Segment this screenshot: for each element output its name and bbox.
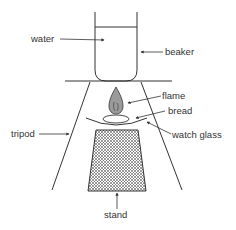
label-water: water [30,33,54,44]
stand [88,130,146,191]
bread-pointer [136,111,165,118]
label-watch-glass: watch glass [171,129,222,140]
flame-pointer [128,96,161,103]
experiment-diagram: water beaker flame bread watch glass tri… [0,0,236,230]
label-bread: bread [168,105,192,116]
water-pointer [60,39,104,40]
bread [103,115,129,123]
watch-glass-pointer [147,122,171,134]
label-stand: stand [104,209,127,220]
label-flame: flame [162,90,185,101]
label-tripod: tripod [11,128,35,139]
beaker [95,12,137,81]
diagram-svg: water beaker flame bread watch glass tri… [0,0,236,230]
label-beaker: beaker [165,46,194,57]
flame [109,87,123,114]
